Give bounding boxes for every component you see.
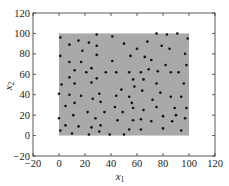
data-point: [115, 71, 118, 74]
data-point: [170, 71, 173, 74]
data-point: [168, 47, 171, 50]
data-point: [85, 71, 88, 74]
plot-area: [58, 32, 189, 136]
data-point: [88, 41, 91, 44]
data-point: [58, 117, 61, 120]
data-point: [95, 77, 98, 80]
y-tick-label: 40: [20, 89, 31, 100]
data-point: [92, 98, 95, 101]
data-point: [68, 43, 71, 46]
data-point: [131, 102, 134, 105]
data-point: [170, 95, 173, 98]
y-axis-label: x2: [2, 81, 16, 91]
data-point: [103, 111, 106, 114]
data-point: [132, 119, 135, 122]
data-point: [155, 106, 158, 109]
data-point: [114, 106, 117, 109]
data-point: [155, 82, 158, 85]
data-point: [90, 67, 93, 70]
data-point: [73, 102, 76, 105]
y-tick-label: 60: [20, 69, 31, 80]
data-point: [140, 128, 143, 131]
y-tick-label: 100: [14, 28, 30, 39]
data-point: [64, 105, 67, 108]
data-point: [120, 88, 123, 91]
data-point: [115, 94, 118, 97]
data-point: [68, 93, 71, 96]
data-point: [95, 44, 98, 47]
data-point: [95, 54, 98, 57]
data-point: [128, 128, 131, 131]
data-point: [141, 89, 144, 92]
data-point: [77, 125, 80, 128]
x-axis-label: x1: [115, 170, 125, 184]
data-point: [88, 133, 91, 136]
data-point: [121, 111, 124, 114]
x-tick-label: 120: [207, 158, 223, 169]
y-tick-label: −20: [14, 151, 30, 162]
data-point: [140, 71, 143, 74]
y-tick-label: 0: [25, 130, 30, 141]
data-point: [60, 83, 63, 86]
y-tick-label: 120: [14, 8, 30, 19]
data-point: [59, 129, 62, 132]
x-tick-label: 40: [106, 158, 117, 169]
data-point: [133, 85, 136, 88]
data-point: [162, 127, 165, 130]
data-point: [146, 40, 149, 43]
data-point: [155, 32, 158, 35]
data-point: [98, 92, 101, 95]
data-point: [80, 61, 83, 64]
y-tick-label: 80: [20, 48, 31, 59]
data-point: [123, 42, 126, 45]
data-point: [177, 71, 180, 74]
data-point: [129, 55, 132, 58]
data-point: [142, 78, 145, 81]
scatter-chart: −20020406080100120 −20020406080100120 x1…: [0, 0, 229, 186]
data-point: [72, 114, 75, 117]
data-point: [111, 35, 114, 38]
data-point: [90, 126, 93, 129]
data-point: [128, 71, 131, 74]
data-point: [73, 69, 76, 72]
data-point: [68, 76, 71, 79]
data-point: [68, 61, 71, 64]
data-point: [164, 64, 167, 67]
x-tick-label: 60: [132, 158, 143, 169]
data-point: [108, 133, 111, 136]
data-point: [157, 70, 160, 73]
data-point: [180, 95, 183, 98]
x-tick-label: 0: [56, 158, 61, 169]
data-point: [71, 132, 74, 135]
data-point: [159, 91, 162, 94]
data-point: [166, 33, 169, 36]
data-point: [185, 64, 188, 67]
data-point: [184, 117, 187, 120]
data-point: [77, 39, 80, 42]
data-point: [99, 101, 102, 104]
data-point: [184, 53, 187, 56]
data-point: [183, 82, 186, 85]
y-tick-label: 20: [20, 110, 31, 121]
data-point: [86, 111, 89, 114]
data-point: [132, 107, 135, 110]
x-tick-label: 100: [181, 158, 197, 169]
x-tick-label: 80: [158, 158, 169, 169]
data-point: [140, 118, 143, 121]
data-point: [94, 117, 97, 120]
data-point: [151, 99, 154, 102]
data-point: [162, 115, 165, 118]
data-point: [186, 37, 189, 40]
data-point: [136, 47, 139, 50]
data-point: [90, 81, 93, 84]
data-point: [99, 124, 102, 127]
data-point: [173, 107, 176, 110]
data-point: [64, 124, 67, 127]
data-point: [59, 36, 62, 39]
data-point: [73, 82, 76, 85]
x-tick-label: 20: [80, 158, 91, 169]
data-point: [59, 55, 62, 58]
data-point: [58, 92, 61, 95]
data-point: [150, 59, 153, 62]
data-point: [105, 71, 108, 74]
